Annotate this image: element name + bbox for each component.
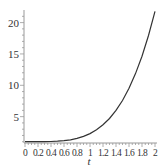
plot-area — [25, 11, 155, 141]
x-tick-label: 0.8 — [72, 148, 83, 158]
x-tick-label: 0.2 — [33, 148, 44, 158]
x-tick-label: 1.2 — [98, 148, 109, 158]
x-tick-label: 0 — [23, 148, 28, 158]
y-tick-label: 20 — [8, 17, 20, 29]
chart: 5101520 00.20.40.60.811.21.41.61.82 t — [0, 0, 164, 168]
x-tick-label: 1.6 — [124, 148, 135, 158]
x-tick-label: 2 — [153, 148, 158, 158]
y-tick-label: 5 — [14, 111, 20, 123]
x-tick-label: 1.4 — [111, 148, 122, 158]
y-tick-label: 10 — [8, 79, 20, 91]
y-tick-label: 15 — [8, 48, 20, 60]
x-tick-label: 0.6 — [59, 148, 70, 158]
data-line — [25, 11, 155, 141]
y-axis: 5101520 — [8, 10, 24, 143]
x-tick-label: 1.8 — [137, 148, 148, 158]
x-tick-label: 0.4 — [46, 148, 57, 158]
